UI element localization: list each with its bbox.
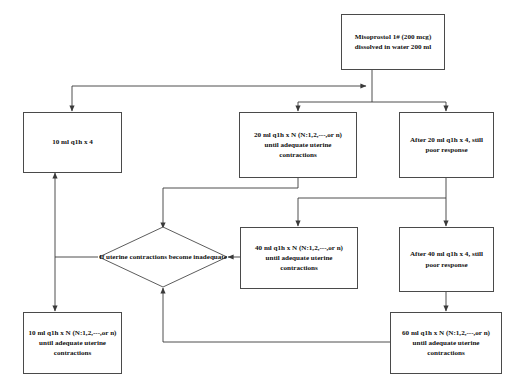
node-after20-line2: poor response — [403, 145, 490, 155]
node-start-line1: Misoprostol 1# (200 mcg) — [345, 32, 441, 42]
node-dose40-line3: contractions — [244, 263, 354, 273]
node-decision-line2: become inadequate — [169, 253, 227, 261]
flowchart-canvas: Misoprostol 1# (200 mcg) dissolved in wa… — [0, 0, 517, 387]
edge-dose20-to-decision — [163, 178, 298, 228]
node-decision-line1: If uterine contractions — [99, 253, 167, 261]
node-after40-line2: poor response — [403, 260, 490, 270]
node-start-line2: dissolved in water 200 ml — [345, 42, 441, 52]
node-dose10-titrate-line3: contractions — [27, 348, 118, 358]
node-dose10-fixed: 10 ml q1h x 4 — [23, 112, 122, 173]
node-after20-line1: After 20 ml q1h x 4, still — [403, 135, 490, 145]
node-dose10-titrate-line2: until adequate uterine — [27, 338, 118, 348]
node-dose40-line2: until adequate uterine — [244, 253, 354, 263]
node-dose20-line2: until adequate uterine — [243, 140, 353, 150]
node-dose10-titrate: 10 ml q1h x N (N:1,2,---,or n) until ade… — [23, 312, 122, 374]
node-dose40-line1: 40 ml q1h x N (N:1,2,---,or n) — [244, 243, 354, 253]
node-dose20-line3: contractions — [243, 150, 353, 160]
node-after40-poor: After 40 ml q1h x 4, still poor response — [399, 227, 494, 292]
node-dose10-titrate-line1: 10 ml q1h x N (N:1,2,---,or n) — [27, 328, 118, 338]
node-dose60-line1: 60 ml q1h x N (N:1,2,---,or n) — [394, 328, 498, 338]
edge-dose60-to-decision — [163, 288, 390, 342]
node-start: Misoprostol 1# (200 mcg) dissolved in wa… — [341, 14, 445, 70]
node-dose60-line2: until adequate uterine — [394, 338, 498, 348]
node-dose10-fixed-line1: 10 ml q1h x 4 — [27, 137, 118, 147]
node-decision-inadequate: If uterine contractions become inadequat… — [98, 226, 228, 288]
node-dose20-line1: 20 ml q1h x N (N:1,2,---,or n) — [243, 130, 353, 140]
node-dose60-line3: contractions — [394, 348, 498, 358]
node-dose40-titrate: 40 ml q1h x N (N:1,2,---,or n) until ade… — [240, 227, 358, 289]
node-dose20-titrate: 20 ml q1h x N (N:1,2,---,or n) until ade… — [239, 112, 357, 178]
node-after40-line1: After 40 ml q1h x 4, still — [403, 249, 490, 259]
node-after20-poor: After 20 ml q1h x 4, still poor response — [399, 112, 494, 178]
node-dose60-titrate: 60 ml q1h x N (N:1,2,---,or n) until ade… — [390, 312, 502, 374]
